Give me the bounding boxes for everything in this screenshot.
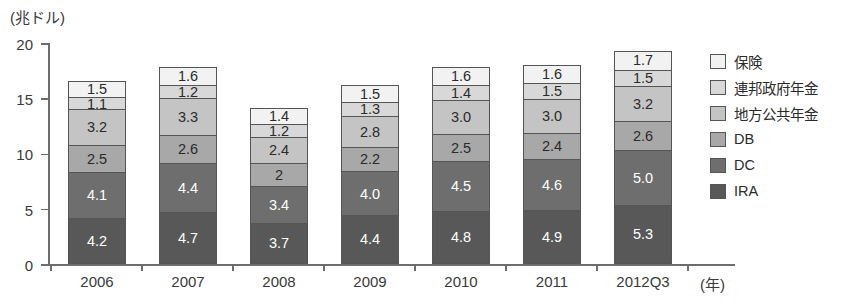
x-axis-label: 2007 <box>143 273 233 290</box>
bar-segment[interactable]: 3.4 <box>250 186 308 224</box>
bar-segment-value: 4.6 <box>542 178 562 193</box>
bar-segment[interactable]: 1.5 <box>341 85 399 102</box>
bar-segment-value: 1.6 <box>178 69 198 84</box>
y-tick-label: 10 <box>16 146 33 163</box>
bar-segment[interactable]: 2.5 <box>432 134 490 162</box>
bar-segment-value: 1.6 <box>542 67 562 82</box>
bar-segment[interactable]: 3.3 <box>159 98 217 134</box>
bar-segment-value: 1.4 <box>451 86 471 100</box>
bar-segment[interactable]: 4.4 <box>159 163 217 212</box>
bar-segment[interactable]: 1.5 <box>523 83 581 100</box>
legend-label: 地方公共年金 <box>734 103 818 124</box>
bar-segment[interactable]: 3.7 <box>250 223 308 264</box>
x-tick-mark <box>232 264 234 271</box>
plot-area: 05101520 4.24.12.53.21.11.54.74.42.63.31… <box>48 43 688 264</box>
legend-swatch <box>710 54 726 69</box>
y-tick-label: 5 <box>25 201 33 218</box>
legend-item[interactable]: DC <box>710 152 818 178</box>
bar-segment-value: 2.4 <box>269 143 289 158</box>
bar-segment-value: 1.5 <box>542 84 562 99</box>
bar-segment[interactable]: 4.0 <box>341 171 399 215</box>
bar-group[interactable]: 4.94.62.43.01.51.6 <box>523 65 581 264</box>
bar-segment-value: 5.3 <box>633 227 653 242</box>
chart-legend: 保険連邦政府年金地方公共年金DBDCIRA <box>710 48 818 204</box>
bar-group[interactable]: 4.74.42.63.31.21.6 <box>159 67 217 264</box>
x-tick-mark <box>687 264 689 271</box>
bar-segment[interactable]: 4.4 <box>341 215 399 264</box>
stacked-bar-chart: (兆ドル) 05101520 4.24.12.53.21.11.54.74.42… <box>0 0 851 308</box>
bar-segment-value: 4.2 <box>87 234 107 249</box>
bar-segment-value: 3.0 <box>451 110 471 125</box>
legend-item[interactable]: 連邦政府年金 <box>710 74 818 100</box>
y-tick-label: 0 <box>25 256 33 273</box>
bar-segment-value: 4.4 <box>178 181 198 196</box>
bar-segment[interactable]: 1.6 <box>159 67 217 85</box>
bar-segment[interactable]: 2.4 <box>250 137 308 164</box>
x-axis-label: 2006 <box>52 273 142 290</box>
bar-segment[interactable]: 3.2 <box>614 86 672 121</box>
bar-segment[interactable]: 1.1 <box>68 97 126 109</box>
legend-label: 連邦政府年金 <box>734 77 818 98</box>
bar-segment[interactable]: 1.5 <box>614 70 672 87</box>
bar-segment-value: 1.3 <box>360 102 380 116</box>
bar-segment[interactable]: 4.6 <box>523 159 581 210</box>
bar-segment[interactable]: 1.4 <box>250 108 308 123</box>
bar-segment[interactable]: 3.2 <box>68 109 126 144</box>
bar-segment[interactable]: 4.8 <box>432 211 490 264</box>
bar-segment[interactable]: 3.0 <box>523 99 581 132</box>
legend-swatch <box>710 184 726 199</box>
bar-segment[interactable]: 4.2 <box>68 218 126 264</box>
x-tick-mark <box>50 264 52 271</box>
bar-segment[interactable]: 1.2 <box>159 85 217 98</box>
bar-segment-value: 4.7 <box>178 231 198 246</box>
bar-segment-value: 3.2 <box>633 97 653 112</box>
bar-segment[interactable]: 4.7 <box>159 212 217 264</box>
y-tick-mark: 0 <box>41 264 48 266</box>
bar-segment-value: 1.5 <box>87 82 107 97</box>
bar-segment[interactable]: 1.6 <box>523 65 581 83</box>
bar-group[interactable]: 5.35.02.63.21.51.7 <box>614 51 672 264</box>
x-axis-line <box>47 264 735 266</box>
bar-segment-value: 1.2 <box>269 124 289 137</box>
bar-segment[interactable]: 2.6 <box>159 135 217 164</box>
bar-segment[interactable]: 1.7 <box>614 51 672 70</box>
bar-group[interactable]: 4.44.02.22.81.31.5 <box>341 85 399 264</box>
y-axis-line <box>48 43 50 264</box>
bar-segment[interactable]: 1.2 <box>250 124 308 137</box>
bar-segment[interactable]: 1.4 <box>432 85 490 100</box>
bar-segment-value: 4.9 <box>542 230 562 245</box>
bar-segment-value: 4.1 <box>87 188 107 203</box>
bar-segment[interactable]: 2.5 <box>68 145 126 173</box>
bar-segment[interactable]: 4.1 <box>68 172 126 217</box>
bar-group[interactable]: 3.73.422.41.21.4 <box>250 108 308 264</box>
bar-segment[interactable]: 1.6 <box>432 67 490 85</box>
bar-segment[interactable]: 1.5 <box>68 81 126 98</box>
bar-segment[interactable]: 2.8 <box>341 116 399 147</box>
x-axis-label: 2011 <box>507 273 597 290</box>
bar-segment[interactable]: 3.0 <box>432 100 490 133</box>
bar-segment[interactable]: 5.0 <box>614 150 672 205</box>
bar-segment[interactable]: 1.3 <box>341 102 399 116</box>
bar-segment-value: 3.0 <box>542 109 562 124</box>
bar-segment[interactable]: 2.6 <box>614 121 672 150</box>
legend-item[interactable]: 地方公共年金 <box>710 100 818 126</box>
y-tick-mark: 20 <box>41 43 48 45</box>
bar-segment[interactable]: 5.3 <box>614 205 672 264</box>
bar-segment-value: 5.0 <box>633 171 653 186</box>
bar-segment[interactable]: 4.9 <box>523 210 581 264</box>
legend-label: DC <box>734 157 755 173</box>
bar-segment-value: 1.6 <box>451 69 471 84</box>
bar-group[interactable]: 4.84.52.53.01.41.6 <box>432 67 490 264</box>
bar-segment[interactable]: 2.4 <box>523 133 581 160</box>
bar-segment[interactable]: 4.5 <box>432 161 490 211</box>
legend-item[interactable]: DB <box>710 126 818 152</box>
bar-segment[interactable]: 2.2 <box>341 147 399 171</box>
bar-group[interactable]: 4.24.12.53.21.11.5 <box>68 81 126 264</box>
legend-item[interactable]: 保険 <box>710 48 818 74</box>
x-tick-mark <box>323 264 325 271</box>
legend-item[interactable]: IRA <box>710 178 818 204</box>
bar-segment-value: 4.4 <box>360 232 380 247</box>
bar-segment[interactable]: 2 <box>250 163 308 185</box>
bar-segment-value: 2.5 <box>87 152 107 167</box>
x-tick-mark <box>141 264 143 271</box>
